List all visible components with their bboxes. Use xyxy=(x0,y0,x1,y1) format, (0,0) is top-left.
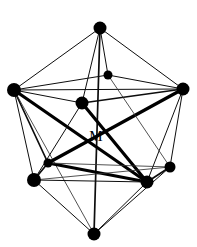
vertex-bottom-apex xyxy=(88,228,101,241)
vertex-lower-left xyxy=(27,173,41,187)
vertex-right xyxy=(177,83,190,96)
vertex-lower-right-up xyxy=(165,162,176,173)
vertex-left xyxy=(7,83,21,97)
label-layer: M xyxy=(89,128,102,144)
vertex-lower-mid-right xyxy=(141,176,154,189)
vertex-upper-inner xyxy=(104,71,113,80)
vertex-upper-mid-left xyxy=(76,97,89,110)
center-atom-label: M xyxy=(89,128,102,144)
vertex-top-apex xyxy=(94,22,107,35)
vertex-lower-inner-left xyxy=(44,159,53,168)
polyhedron-diagram: M xyxy=(0,0,197,247)
figure-canvas: M xyxy=(0,0,197,247)
